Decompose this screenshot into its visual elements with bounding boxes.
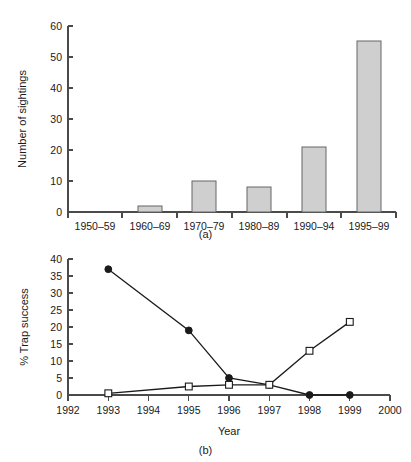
line-chart-ytick-0: 0 (56, 389, 62, 401)
line-chart-xtick-1995: 1995 (177, 404, 201, 416)
line-chart-ytick-10: 10 (50, 355, 62, 367)
line-chart-y-ticks (68, 259, 73, 395)
line-chart-xtick-1994: 1994 (137, 404, 161, 416)
bar-chart-ytick-10: 10 (50, 175, 62, 187)
chart-panel-a: 0 10 20 30 40 50 60 Number of sightings (0, 0, 411, 246)
bar-1970-79 (192, 181, 216, 212)
line-chart-xtick-1992: 1992 (56, 404, 80, 416)
line-chart-ytick-35: 35 (50, 270, 62, 282)
bar-1960-69 (138, 206, 162, 212)
bar-chart-ytick-50: 50 (50, 51, 62, 63)
bar-1995-99 (357, 41, 381, 212)
panel-a-caption: (a) (0, 228, 411, 240)
bar-chart-x-ticks (68, 212, 396, 218)
line-chart-xtick-1999: 1999 (338, 404, 362, 416)
line-chart-y-axis-title: % Trap success (18, 288, 30, 366)
line-chart-xtick-1998: 1998 (298, 404, 322, 416)
line-chart-svg: 0 5 10 15 20 25 30 35 40 % Trap success (0, 246, 411, 462)
line-chart-x-axis-title: Year (218, 425, 241, 437)
bar-chart-ytick-40: 40 (50, 82, 62, 94)
bar-1990-94 (302, 147, 326, 212)
line-chart-ytick-5: 5 (56, 372, 62, 384)
line-chart-xtick-1997: 1997 (258, 404, 282, 416)
bar-1980-89 (247, 187, 271, 212)
bar-chart-ytick-0: 0 (56, 206, 62, 218)
line-chart-ytick-20: 20 (50, 321, 62, 333)
line-chart-xtick-1993: 1993 (97, 404, 121, 416)
line-chart-ytick-25: 25 (50, 304, 62, 316)
filled-circle-series-markers (105, 266, 353, 399)
panel-b-caption: (b) (0, 444, 411, 456)
line-chart-ytick-15: 15 (50, 338, 62, 350)
bar-chart-y-axis-title: Number of sightings (16, 70, 28, 168)
bar-chart-ytick-20: 20 (50, 144, 62, 156)
bar-chart-y-ticks (68, 26, 73, 212)
figure-container: 0 10 20 30 40 50 60 Number of sightings (0, 0, 411, 462)
bar-chart-ytick-60: 60 (50, 20, 62, 32)
bar-chart-svg: 0 10 20 30 40 50 60 Number of sightings (0, 0, 411, 246)
line-chart-xtick-2000: 2000 (378, 404, 402, 416)
chart-panel-b: 0 5 10 15 20 25 30 35 40 % Trap success (0, 246, 411, 462)
bar-chart-bars (138, 41, 381, 212)
open-square-series-markers (105, 319, 353, 397)
bar-chart-ytick-30: 30 (50, 113, 62, 125)
line-chart-ytick-40: 40 (50, 253, 62, 265)
line-chart-xtick-1996: 1996 (217, 404, 241, 416)
line-chart-ytick-30: 30 (50, 287, 62, 299)
line-chart-x-ticks (68, 395, 390, 401)
